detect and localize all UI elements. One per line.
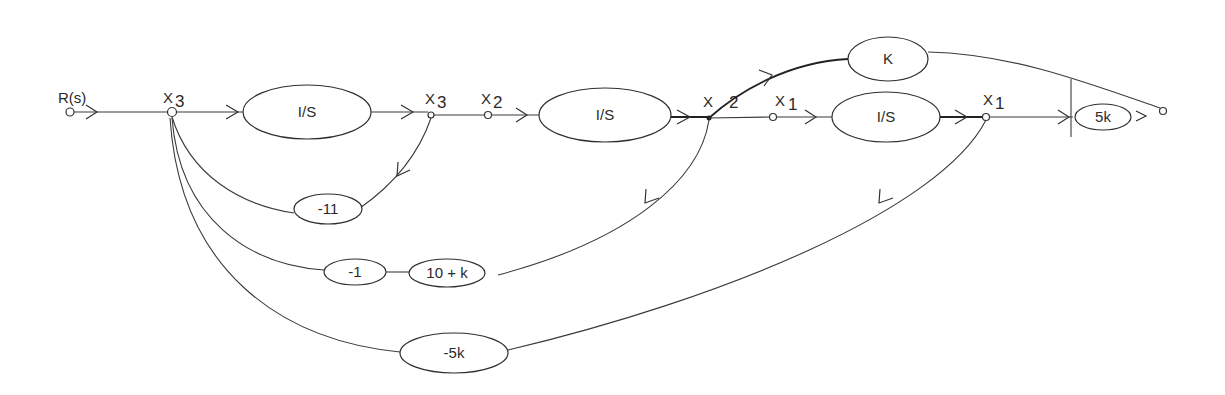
- integrator-3-label: I/S: [877, 108, 895, 125]
- x1-in-label: X 1: [775, 92, 797, 114]
- x2-in-label: X 2: [481, 90, 502, 112]
- edge-x2-to-10k: [498, 120, 709, 275]
- forward-path: R(s) X 3 I/S X 3 X 2: [58, 79, 1167, 142]
- input-label: R(s): [58, 89, 86, 106]
- x1-in-node: [770, 114, 777, 121]
- edge-x1-to-minus5k: [508, 120, 986, 350]
- arrow-icon: [879, 189, 893, 203]
- x3-node: [428, 112, 434, 118]
- svg-text:3: 3: [175, 92, 184, 111]
- x1-label: X 1: [983, 91, 1004, 113]
- output-gain-label: 5k: [1095, 108, 1111, 125]
- x2-in-node: [485, 112, 492, 119]
- integrator-2-label: I/S: [596, 106, 614, 123]
- feedback-1-label: -1: [348, 263, 361, 280]
- input-node: [66, 108, 74, 116]
- edge-x2-to-x1: [709, 117, 770, 118]
- svg-text:X: X: [775, 92, 785, 109]
- integrator-1-label: I/S: [298, 103, 316, 120]
- svg-text:X: X: [983, 91, 993, 108]
- svg-text:1: 1: [995, 94, 1004, 113]
- k-gain-label: K: [883, 50, 893, 67]
- svg-text:X: X: [425, 90, 435, 107]
- svg-text:3: 3: [437, 93, 446, 112]
- svg-text:X: X: [703, 93, 713, 110]
- feedback-10k-label: 10 + k: [426, 264, 468, 281]
- feedback-5k-label: -5k: [444, 344, 465, 361]
- x1-node: [983, 114, 990, 121]
- svg-text:2: 2: [493, 93, 502, 112]
- edge-minus5k-to-x3-sum: [170, 118, 400, 352]
- edge-k-to-output: [928, 52, 1160, 108]
- x3-label: X 3: [425, 90, 446, 112]
- edge-minus1-to-x3-sum: [172, 118, 324, 270]
- svg-text:1: 1: [788, 95, 797, 114]
- feedback-5k-branch: -5k: [170, 118, 986, 373]
- svg-text:X: X: [481, 90, 491, 107]
- arrow-icon: [1136, 111, 1146, 121]
- svg-text:X: X: [163, 89, 173, 106]
- output-node: [1160, 108, 1167, 115]
- signal-flow-graph: R(s) X 3 I/S X 3 X 2: [0, 0, 1225, 395]
- feedback-11-label: -11: [318, 200, 339, 217]
- edge-x3-to-minus11: [360, 118, 431, 208]
